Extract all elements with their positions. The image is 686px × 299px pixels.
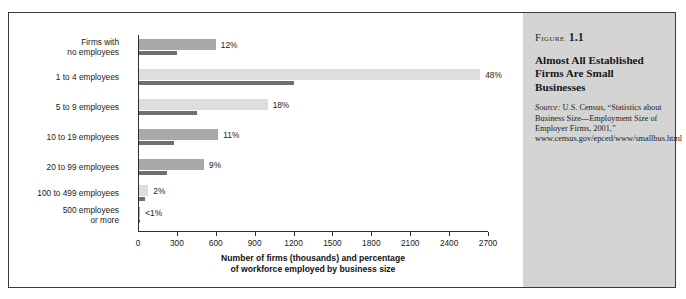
x-axis-tick-label: 1500	[323, 238, 341, 248]
x-axis-tick	[255, 232, 256, 236]
x-axis-tick	[371, 232, 372, 236]
x-axis-tick	[332, 232, 333, 236]
bar-number-of-firms	[138, 39, 216, 50]
percent-value-label: 9%	[209, 160, 221, 170]
x-axis-tick	[449, 232, 450, 236]
percent-value-label: 2%	[153, 186, 165, 196]
figure-label-word: Figure	[535, 32, 565, 43]
figure-number: 1.1	[569, 30, 584, 44]
source-label: Source:	[535, 103, 561, 112]
bar-group	[138, 69, 480, 85]
x-axis-tick-label: 600	[209, 238, 223, 248]
bar-percent-workforce	[138, 81, 294, 85]
category-label: 100 to 499 employees	[9, 189, 119, 199]
chart-area: Firms withno employees12%1 to 4 employee…	[9, 13, 522, 287]
x-axis-tick-label: 2700	[479, 238, 497, 248]
x-axis-tick	[410, 232, 411, 236]
percent-value-label: 48%	[485, 70, 502, 80]
category-label: 500 employeesor more	[9, 206, 119, 225]
bar-number-of-firms	[138, 99, 268, 110]
x-axis-tick	[177, 232, 178, 236]
x-axis-title-line2: of workforce employed by business size	[138, 264, 488, 275]
bar-number-of-firms	[138, 185, 148, 196]
category-label: 5 to 9 employees	[9, 103, 119, 113]
bar-percent-workforce	[138, 51, 177, 55]
x-axis-tick	[488, 232, 489, 236]
x-axis-tick	[216, 232, 217, 236]
figure-sidebar: Figure 1.1 Almost All Established Firms …	[523, 13, 675, 287]
x-axis-tick-label: 2400	[440, 238, 458, 248]
bar-group	[138, 129, 218, 145]
x-axis-tick-label: 900	[248, 238, 262, 248]
category-label: Firms withno employees	[9, 38, 119, 57]
bar-number-of-firms	[138, 129, 218, 140]
bar-group	[138, 185, 148, 201]
bar-percent-workforce	[138, 171, 167, 175]
percent-value-label: 12%	[221, 40, 238, 50]
x-axis-tick-label: 1800	[362, 238, 380, 248]
bar-group	[138, 159, 204, 175]
category-label: 1 to 4 employees	[9, 73, 119, 83]
bar-number-of-firms	[138, 159, 204, 170]
bar-number-of-firms	[138, 69, 480, 80]
figure-number-heading: Figure 1.1	[535, 27, 664, 45]
figure-title: Almost All Established Firms Are Small B…	[535, 54, 664, 94]
x-axis-tick-label: 2100	[401, 238, 419, 248]
figure-source: Source: U.S. Census, “Statistics about B…	[535, 103, 664, 144]
bar-percent-workforce	[138, 141, 174, 145]
x-axis-title-line1: Number of firms (thousands) and percenta…	[138, 253, 488, 264]
category-label: 20 to 99 employees	[9, 163, 119, 173]
x-axis-title: Number of firms (thousands) and percenta…	[138, 253, 488, 275]
x-axis-tick-label: 300	[170, 238, 184, 248]
percent-value-label: 11%	[223, 130, 239, 140]
x-axis-tick-label: 0	[136, 238, 141, 248]
y-axis-line	[138, 35, 139, 231]
percent-value-label: 18%	[273, 100, 290, 110]
bar-percent-workforce	[138, 111, 197, 115]
x-axis-tick-label: 1200	[284, 238, 302, 248]
figure-frame: Firms withno employees12%1 to 4 employee…	[8, 12, 676, 288]
category-label: 10 to 19 employees	[9, 133, 119, 143]
bar-group	[138, 39, 216, 55]
x-axis-line	[138, 231, 488, 232]
x-axis-tick	[294, 232, 295, 236]
bar-group	[138, 99, 268, 115]
percent-value-label: <1%	[145, 208, 162, 218]
